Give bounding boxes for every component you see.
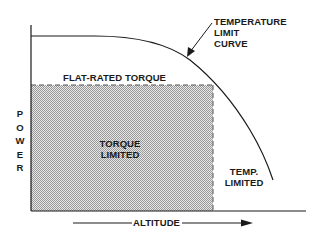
y-axis-letter: R [14, 161, 26, 175]
torque-limited-line-2: LIMITED [96, 149, 144, 160]
curve-pointer-arrowhead-icon [187, 47, 195, 57]
altitude-arrowhead-icon [241, 220, 253, 227]
curve-label-line-3: CURVE [214, 38, 287, 49]
curve-label-line-1: TEMPERATURE [214, 16, 287, 27]
y-axis-label: P O W E R [14, 107, 26, 175]
flat-rated-torque-label: FLAT-RATED TORQUE [63, 72, 166, 83]
torque-limited-label: TORQUE LIMITED [96, 138, 144, 160]
curve-pointer-line [190, 23, 212, 52]
temp-limited-line-2: LIMITED [222, 177, 266, 188]
torque-limited-line-1: TORQUE [96, 138, 144, 149]
x-axis-label: ALTITUDE [133, 217, 180, 228]
y-axis-letter: O [14, 121, 26, 135]
temp-limited-line-1: TEMP. [222, 166, 266, 177]
diagram-canvas: TEMPERATURE LIMIT CURVE FLAT-RATED TORQU… [0, 0, 322, 242]
y-axis-letter: P [14, 107, 26, 121]
y-axis-letter: E [14, 148, 26, 162]
curve-label-line-2: LIMIT [214, 27, 287, 38]
temp-limited-label: TEMP. LIMITED [222, 166, 266, 188]
y-axis-letter: W [14, 134, 26, 148]
curve-label: TEMPERATURE LIMIT CURVE [214, 16, 287, 49]
